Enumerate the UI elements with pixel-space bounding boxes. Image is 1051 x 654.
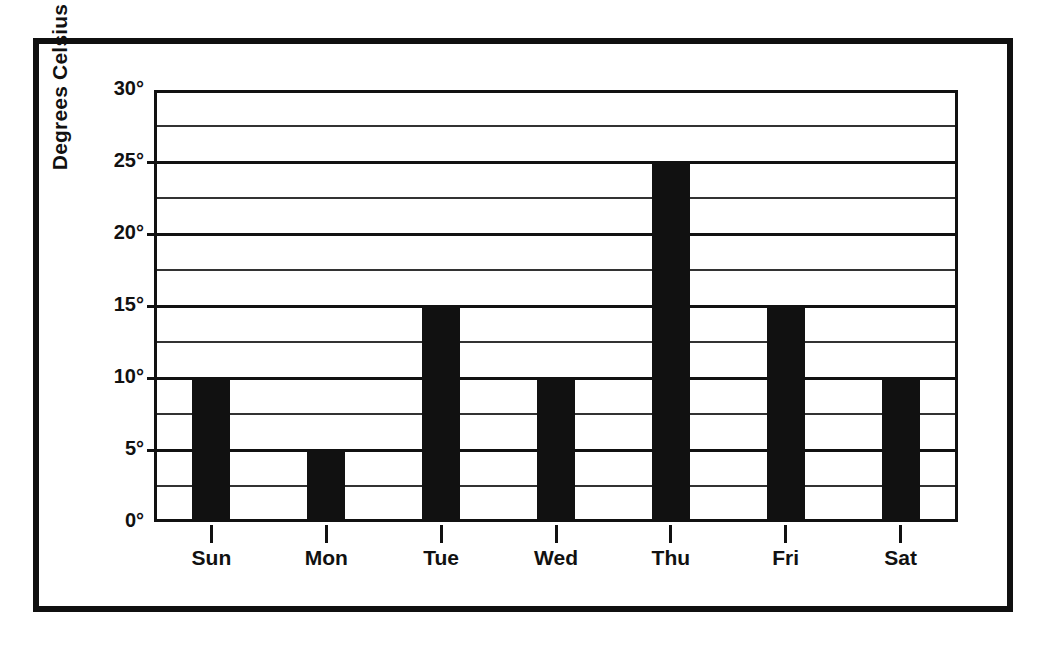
y-axis-tick-label: 15° (84, 293, 144, 316)
x-axis-tick (555, 525, 558, 543)
y-axis-tick-label: 20° (84, 221, 144, 244)
y-axis-title: Degrees Celsius (48, 0, 78, 202)
y-axis-tick-labels: 0°5°10°15°20°25°30° (80, 90, 144, 522)
y-axis-tick-label: 0° (84, 509, 144, 532)
x-axis-label-sat: Sat (846, 546, 956, 570)
x-axis-label-wed: Wed (501, 546, 611, 570)
y-axis-tick-label: 5° (84, 437, 144, 460)
y-axis-tick-label: 25° (84, 149, 144, 172)
x-axis-label-fri: Fri (731, 546, 841, 570)
y-axis-tick-label: 30° (84, 77, 144, 100)
x-axis-label-mon: Mon (271, 546, 381, 570)
plot-area (154, 90, 958, 522)
y-axis-tick-label: 10° (84, 365, 144, 388)
plot-border (154, 90, 958, 522)
x-axis-tick (784, 525, 787, 543)
chart-figure: Degrees Celsius 0°5°10°15°20°25°30° SunM… (0, 0, 1051, 654)
x-axis-tick (899, 525, 902, 543)
x-axis-tick (325, 525, 328, 543)
x-axis-label-thu: Thu (616, 546, 726, 570)
x-axis-tick (210, 525, 213, 543)
x-axis-label-sun: Sun (156, 546, 266, 570)
x-axis-tick (440, 525, 443, 543)
x-axis-tick (669, 525, 672, 543)
x-axis-label-tue: Tue (386, 546, 496, 570)
